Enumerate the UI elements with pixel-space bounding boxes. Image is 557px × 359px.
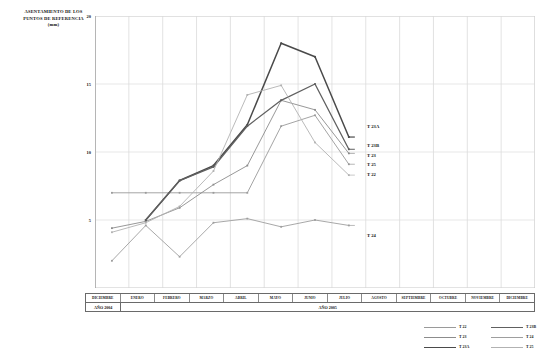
year-cell-1: AÑO 2005 (121, 303, 534, 312)
legend-line-swatch (491, 337, 523, 338)
legend-line-swatch (491, 347, 523, 348)
y-axis-tick-20: 20 (87, 14, 91, 19)
plot-area (95, 16, 535, 288)
legend-label: T 23 (459, 335, 466, 339)
y-axis-tick-10: 10 (87, 150, 91, 155)
series-end-label-t-23b: T 23B (367, 143, 379, 148)
y-axis-tick-15: 15 (87, 82, 91, 87)
month-cell-3: MARZO (190, 294, 225, 302)
year-cell-0: AÑO 2004 (86, 303, 121, 312)
month-cell-11: NOVIEMBRE (466, 294, 501, 302)
legend-label: T 23A (459, 345, 469, 349)
legend-item-t-23a: T 23A (424, 345, 485, 349)
legend-line-swatch (491, 327, 523, 328)
month-cell-6: JUNIO (293, 294, 328, 302)
legend-label: T 24 (526, 335, 533, 339)
x-axis-month-table: DICIEMBREENEROFEBREROMARZOABRILMAYOJUNIO… (85, 293, 535, 312)
series-end-label-t-22: T 22 (367, 172, 376, 177)
month-cell-12: DICIEMBRE (500, 294, 534, 302)
month-cell-0: DICIEMBRE (86, 294, 121, 302)
chart-legend: T 22T 23BT 23T 24T 23AT 25 (424, 322, 552, 352)
legend-item-t-24: T 24 (491, 335, 552, 339)
y-axis-tick-labels: 5101520 (72, 16, 93, 288)
month-cell-9: SEPTIEMBRE (397, 294, 432, 302)
legend-item-t-23: T 23 (424, 335, 485, 339)
legend-line-swatch (424, 347, 456, 348)
series-end-label-t-24: T 24 (367, 233, 376, 238)
series-end-label-t-23a: T 23A (367, 124, 379, 129)
line-chart-svg (95, 16, 535, 288)
month-cell-2: FEBRERO (155, 294, 190, 302)
legend-item-t-25: T 25 (491, 345, 552, 349)
series-end-label-t-23: T 23 (367, 153, 376, 158)
series-end-label-t-25: T 25 (367, 162, 376, 167)
legend-line-swatch (424, 337, 456, 338)
legend-label: T 25 (526, 345, 533, 349)
month-cell-10: OCTUBRE (431, 294, 466, 302)
month-cell-4: ABRIL (224, 294, 259, 302)
y-axis-tick-5: 5 (89, 218, 91, 223)
month-cell-8: AGOSTO (362, 294, 397, 302)
chart-page: ASENTAMIENTO DE LOS PUNTOS DE REFERENCIA… (0, 0, 557, 359)
legend-line-swatch (424, 327, 456, 328)
legend-item-t-23b: T 23B (491, 325, 552, 329)
month-header-row: DICIEMBREENEROFEBREROMARZOABRILMAYOJUNIO… (86, 294, 534, 303)
month-cell-7: JULIO (328, 294, 363, 302)
month-cell-5: MAYO (259, 294, 294, 302)
legend-item-t-22: T 22 (424, 325, 485, 329)
year-row: AÑO 2004AÑO 2005 (86, 303, 534, 312)
legend-label: T 22 (459, 325, 466, 329)
legend-label: T 23B (526, 325, 536, 329)
month-cell-1: ENERO (121, 294, 156, 302)
